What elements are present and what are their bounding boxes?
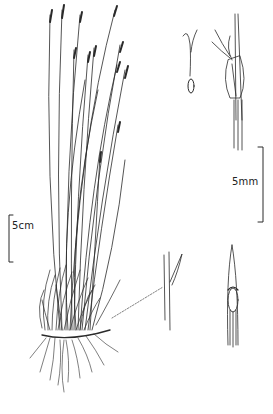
- scale-bar-5mm: [258, 147, 263, 222]
- plant-drawing: [0, 0, 273, 414]
- scale-label-5mm: 5mm: [232, 176, 258, 187]
- scale-label-5cm: 5cm: [12, 220, 34, 231]
- botanical-plate: 5cm 5mm: [0, 0, 273, 414]
